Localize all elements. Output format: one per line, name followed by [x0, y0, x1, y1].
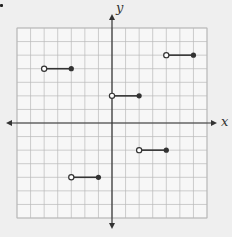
x-axis-label: x — [221, 114, 228, 129]
y-axis-label: y — [116, 0, 123, 15]
closed-endpoint-icon — [191, 53, 196, 58]
closed-endpoint-icon — [96, 175, 101, 180]
closed-endpoint-icon — [164, 148, 169, 153]
graph — [0, 0, 232, 237]
open-endpoint-icon — [69, 175, 74, 180]
open-endpoint-icon — [164, 53, 169, 58]
open-endpoint-icon — [109, 93, 114, 98]
open-endpoint-icon — [137, 148, 142, 153]
closed-endpoint-icon — [69, 66, 74, 71]
closed-endpoint-icon — [137, 93, 142, 98]
open-endpoint-icon — [42, 66, 47, 71]
